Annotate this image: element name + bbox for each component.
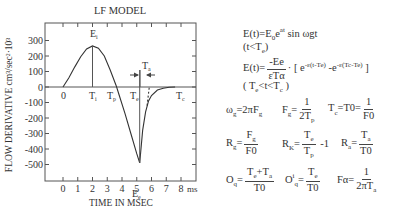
zero-label: 0 — [61, 90, 66, 101]
equation-f-alpha: Fα=12πTa — [337, 167, 378, 194]
equation-omega-g: ωg=2πFg — [226, 105, 262, 118]
te-label: Te — [130, 90, 139, 102]
condition-open-phase: (t<Te) — [243, 42, 268, 55]
x-tick-label: 0 — [61, 183, 66, 194]
series-line — [140, 87, 175, 163]
y-tick-label: 200 — [28, 51, 43, 62]
x-axis-ticks: 012345678 — [61, 23, 184, 194]
ta-label: Ta — [142, 60, 151, 72]
x-tick-label: 7 — [164, 183, 169, 194]
ta-interval-arrows — [130, 70, 155, 87]
x-tick-label: 1 — [75, 183, 80, 194]
x-tick-label: 3 — [105, 183, 110, 194]
equation-rg: Rg=FgF0 — [226, 130, 260, 157]
y-tick-label: -200 — [25, 113, 43, 124]
ei-label: Ei — [90, 28, 98, 40]
x-tick-label: 6 — [149, 183, 154, 194]
plot-frame — [45, 23, 196, 181]
series-line — [63, 46, 140, 163]
y-tick-label: -300 — [25, 128, 43, 139]
y-tick-label: 300 — [28, 35, 43, 46]
x-axis-label: TIME IN MSEC — [89, 198, 153, 208]
tp-label: Tp — [107, 90, 116, 102]
condition-return-phase: ( Te<t<Tc ) — [243, 81, 289, 94]
ee-label: Ee — [132, 188, 141, 200]
x-tick-label: 2 — [90, 183, 95, 194]
waveform-series — [63, 46, 175, 163]
chart-title: LF MODEL — [94, 5, 146, 16]
x-tick-label: 4 — [120, 183, 125, 194]
y-tick-label: 100 — [28, 66, 43, 77]
equation-oq-i: Oiq=TeT0 — [285, 167, 322, 194]
equation-fg: Fg=12Tp — [282, 97, 316, 124]
equation-tc: Tc=T0=1F0 — [328, 97, 376, 121]
lf-model-chart: LF MODEL 3002001000-100-200-300-400-500 … — [0, 0, 215, 215]
equation-oq: Oq=Te+TaT0 — [226, 167, 276, 194]
y-tick-label: -500 — [25, 159, 43, 170]
y-axis-ticks: 3002001000-100-200-300-400-500 — [25, 35, 196, 170]
y-tick-label: -400 — [25, 144, 43, 155]
y-axis-label: FLOW DERIVATIVE cm³/sec²·10³ — [4, 38, 14, 172]
tc-label: Tc — [176, 90, 185, 102]
equation-open-phase: E(t)=E0eat sin ωgt — [243, 27, 318, 42]
y-tick-label: 0 — [38, 82, 43, 93]
ti-label: Ti — [89, 90, 97, 102]
equation-rk: RK=TeTp -1 — [282, 130, 329, 159]
x-unit-label: ms — [187, 184, 198, 194]
equation-ra: Ra=TaT0 — [341, 130, 375, 157]
equation-return-phase: E(t)=-EeεTα· [ e-ε(t-Te) -e-ε(Tc-Te) ] — [243, 57, 369, 81]
x-tick-label: 8 — [179, 183, 184, 194]
y-tick-label: -100 — [25, 97, 43, 108]
